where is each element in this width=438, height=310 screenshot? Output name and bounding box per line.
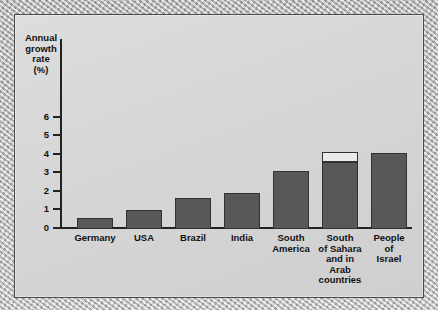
y-tick-2 <box>53 190 61 192</box>
bar-india <box>224 193 260 229</box>
bar-germany <box>77 218 113 229</box>
y-tick-label-1: 1 <box>25 204 49 213</box>
x-label-people-of-israel-line-1: People <box>359 233 419 244</box>
y-tick-label-3: 3 <box>25 167 49 176</box>
bar-group-india <box>224 193 260 229</box>
y-tick-5 <box>53 134 61 136</box>
bar-brazil <box>175 198 211 229</box>
y-tick-label-4: 4 <box>25 149 49 158</box>
y-tick-6 <box>53 116 61 118</box>
x-label-south-of-sahara-line-5: countries <box>310 275 370 286</box>
bar-group-south-america <box>273 171 309 229</box>
bar-usa <box>126 210 162 229</box>
plot-area: Annual growth rate (%) 0 1 2 3 4 5 6 <box>15 15 423 297</box>
y-tick-0 <box>53 227 61 229</box>
y-tick-label-0: 0 <box>25 223 49 232</box>
bar-south-of-sahara <box>322 162 358 229</box>
bar-south-of-sahara-hollow-segment <box>322 152 358 162</box>
y-tick-label-2: 2 <box>25 186 49 195</box>
y-tick-1 <box>53 208 61 210</box>
y-tick-3 <box>53 171 61 173</box>
bar-group-people-of-israel <box>371 153 407 229</box>
y-tick-label-6: 6 <box>25 112 49 121</box>
x-label-people-of-israel-line-3: Israel <box>359 254 419 265</box>
y-axis-title: Annual growth rate (%) <box>19 33 63 75</box>
bar-people-of-israel <box>371 153 407 229</box>
bar-group-usa <box>126 210 162 229</box>
bar-group-south-of-sahara <box>322 153 358 229</box>
chart-panel: Annual growth rate (%) 0 1 2 3 4 5 6 <box>14 14 424 298</box>
y-tick-label-5: 5 <box>25 130 49 139</box>
y-axis-title-line-3: rate <box>19 54 63 65</box>
x-label-people-of-israel: People of Israel <box>359 233 419 265</box>
bar-south-america <box>273 171 309 229</box>
bar-group-germany <box>77 217 113 229</box>
bar-group-brazil <box>175 198 211 229</box>
y-axis-title-line-1: Annual <box>19 33 63 44</box>
y-axis-title-line-4: (%) <box>19 65 63 76</box>
y-tick-4 <box>53 153 61 155</box>
